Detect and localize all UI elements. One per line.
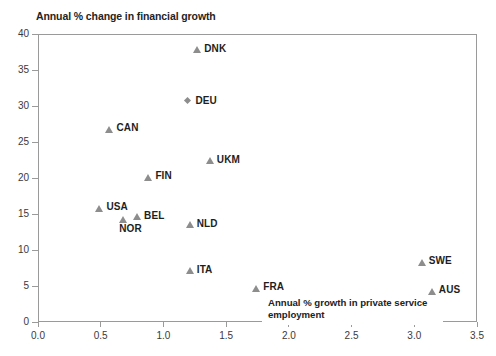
y-tick-mark [32,178,39,179]
data-point-marker-triangle [95,205,103,212]
y-tick-label: 10 [3,244,29,255]
data-point-label: DEU [196,95,217,106]
data-point-label: CAN [116,122,138,133]
x-tick-label: 3.5 [457,330,496,341]
x-axis-label: Annual % growth in private service emplo… [262,295,443,325]
data-point-label: SWE [429,255,452,266]
y-tick-mark [32,214,39,215]
plot-area [38,34,477,322]
data-point-marker-triangle [105,126,113,133]
data-point-marker-triangle [133,213,141,220]
x-tick-label: 1.5 [206,330,246,341]
y-tick-mark [32,34,39,35]
data-point-marker-triangle [119,216,127,223]
y-tick-mark [32,106,39,107]
x-tick-mark [38,322,39,327]
x-tick-mark [477,322,478,327]
y-tick-label: 40 [3,28,29,39]
y-tick-mark [32,250,39,251]
x-tick-label: 3.0 [394,330,434,341]
x-tick-mark [226,322,227,327]
y-tick-label: 30 [3,100,29,111]
data-point-label: UKM [217,154,240,165]
data-point-label: FRA [263,281,284,292]
data-point-label: FIN [155,170,171,181]
x-tick-label: 2.5 [332,330,372,341]
x-tick-label: 0.5 [81,330,121,341]
x-tick-label: 2.0 [269,330,309,341]
data-point-marker-triangle [186,221,194,228]
y-tick-label: 15 [3,208,29,219]
data-point-label: USA [106,201,127,212]
scatter-chart: Annual % change in financial growth 0510… [0,0,496,356]
x-tick-label: 1.0 [143,330,183,341]
y-tick-mark [32,286,39,287]
data-point-marker-triangle [418,259,426,266]
y-tick-label: 25 [3,136,29,147]
x-tick-label: 0.0 [18,330,58,341]
y-tick-label: 20 [3,172,29,183]
data-point-label: NLD [197,218,218,229]
x-tick-mark [100,322,101,327]
data-point-marker-triangle [206,157,214,164]
data-point-label: ITA [197,264,213,275]
y-tick-mark [32,70,39,71]
y-tick-label: 5 [3,280,29,291]
data-point-label: NOR [119,223,142,234]
y-tick-mark [32,142,39,143]
data-point-label: BEL [144,210,164,221]
data-point-marker-triangle [186,267,194,274]
data-point-label: AUS [439,284,460,295]
data-point-label: DNK [204,43,226,54]
chart-title: Annual % change in financial growth [36,10,216,22]
x-tick-mark [163,322,164,327]
data-point-marker-triangle [252,285,260,292]
y-tick-label: 0 [3,316,29,327]
data-point-marker-triangle [428,288,436,295]
data-point-marker-triangle [144,174,152,181]
data-point-marker-triangle [193,46,201,53]
y-tick-label: 35 [3,64,29,75]
